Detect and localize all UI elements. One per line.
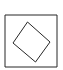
diagram-background <box>0 0 63 70</box>
figure-panel-a: A <box>0 0 63 70</box>
diagram-canvas <box>0 0 63 70</box>
